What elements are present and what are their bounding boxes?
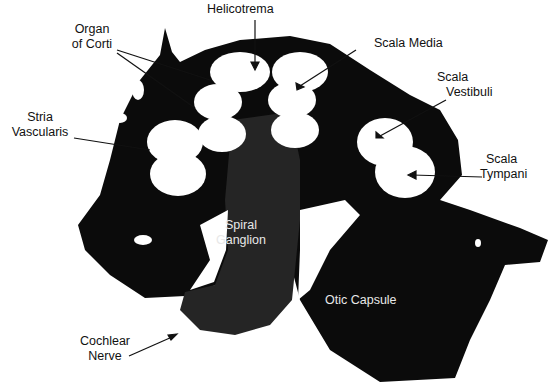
bone-hole <box>113 113 127 123</box>
bone-hole <box>134 235 152 245</box>
chamber-right-tympani <box>375 146 435 198</box>
label-scala-tympani-line2: Tympani <box>480 167 527 182</box>
label-spiral-ganglion-line2: Ganglion <box>208 233 274 248</box>
label-organ-of-corti: Organ of Corti <box>62 22 122 52</box>
label-scala-tympani-line1: Scala <box>480 152 527 167</box>
label-scala-media: Scala Media <box>374 36 443 51</box>
chamber-mid-left-lower <box>198 116 246 152</box>
chamber-mid-left-upper <box>194 84 242 120</box>
label-scala-vestibuli-line2: Vestibuli <box>437 85 493 100</box>
label-stria-vascularis-line2: Vascularis <box>6 125 74 140</box>
bone-hole <box>132 80 144 100</box>
label-organ-of-corti-line2: of Corti <box>62 37 122 52</box>
label-scala-vestibuli-line1: Scala <box>437 70 493 85</box>
bone-hole <box>475 239 481 247</box>
label-cochlear-nerve: Cochlear Nerve <box>76 334 134 364</box>
label-otic-capsule: Otic Capsule <box>325 293 397 308</box>
label-spiral-ganglion-line1: Spiral <box>208 218 274 233</box>
label-organ-of-corti-line1: Organ <box>62 22 122 37</box>
label-cochlear-nerve-line1: Cochlear <box>76 334 134 349</box>
label-helicotrema: Helicotrema <box>207 2 274 17</box>
cochlea-section-image <box>0 0 557 387</box>
leader-cochlear-nerve <box>129 337 172 356</box>
label-scala-vestibuli: Scala Vestibuli <box>437 70 493 100</box>
label-spiral-ganglion: Spiral Ganglion <box>208 218 274 248</box>
chamber-mid-right-lower <box>271 112 319 148</box>
label-cochlear-nerve-line2: Nerve <box>76 349 134 364</box>
label-stria-vascularis-line1: Stria <box>6 110 74 125</box>
chamber-left-lower <box>150 152 206 196</box>
cochlea-diagram: Helicotrema Organ of Corti Scala Media S… <box>0 0 557 387</box>
label-scala-tympani: Scala Tympani <box>480 152 527 182</box>
label-stria-vascularis: Stria Vascularis <box>6 110 74 140</box>
